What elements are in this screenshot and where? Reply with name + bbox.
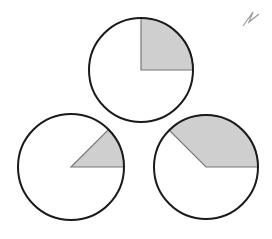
circle-wedge-diagram — [0, 0, 272, 239]
circle-top — [89, 18, 193, 122]
circle-bottom-left — [18, 114, 124, 220]
shaded-wedge — [169, 115, 258, 167]
circles-group — [18, 18, 258, 220]
shaded-wedge — [71, 130, 124, 167]
circle-bottom-right — [154, 115, 258, 219]
pencil-mark — [243, 12, 259, 26]
